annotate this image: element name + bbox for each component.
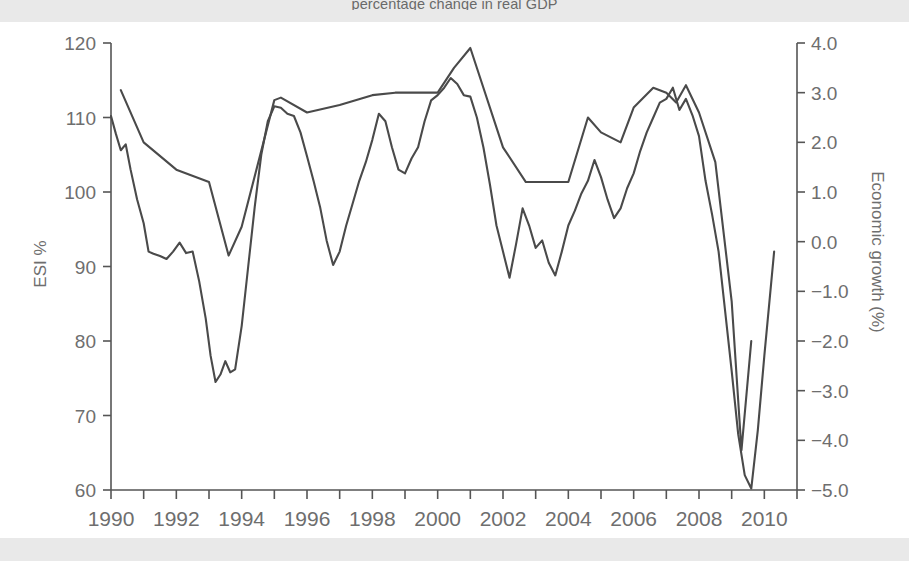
x-tick-label: 2010 [741,507,788,530]
left-tick-label: 120 [64,33,96,54]
right-tick-label: 0.0 [811,232,837,253]
left-tick-label: 110 [66,108,96,129]
background-band-bottom [0,538,909,561]
chart-card: 60708090100110120−5.0−4.0−3.0−2.0−1.00.0… [0,22,909,538]
chart-page: percentage change in real GDP 6070809010… [0,0,909,561]
right-tick-label: 2.0 [811,132,837,153]
x-tick-label: 2008 [676,507,723,530]
left-tick-label: 60 [75,480,96,501]
x-tick-label: 2002 [480,507,527,530]
right-tick-label: 1.0 [811,182,837,203]
cut-off-caption: percentage change in real GDP [0,0,909,10]
left-tick-label: 100 [64,182,96,203]
right-tick-label: 4.0 [811,33,837,54]
x-tick-label: 1992 [153,507,200,530]
right-tick-label: −3.0 [811,381,849,402]
left-tick-label: 90 [75,257,96,278]
x-tick-label: 1996 [284,507,331,530]
right-tick-label: −2.0 [811,331,849,352]
x-tick-label: 2006 [610,507,657,530]
x-tick-label: 1990 [88,507,135,530]
left-tick-label: 70 [75,406,96,427]
series-line-esi [111,78,774,489]
right-tick-label: 3.0 [811,83,837,104]
left-tick-label: 80 [75,331,96,352]
x-tick-label: 2000 [414,507,461,530]
x-tick-label: 2004 [545,507,592,530]
chart-canvas: 60708090100110120−5.0−4.0−3.0−2.0−1.00.0… [0,22,909,538]
x-tick-label: 1994 [218,507,265,530]
left-axis-title: ESI % [31,219,51,309]
right-axis-title: Economic growth (%) [867,147,887,357]
x-tick-label: 1998 [349,507,396,530]
right-tick-label: −5.0 [811,480,849,501]
right-tick-label: −4.0 [811,430,849,451]
right-tick-label: −1.0 [811,281,849,302]
